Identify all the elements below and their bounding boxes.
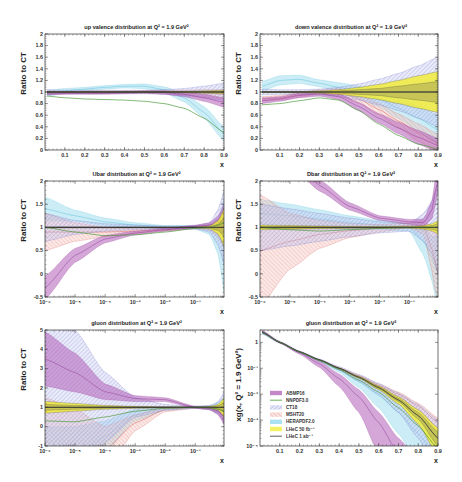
x-axis-label: x xyxy=(434,161,438,168)
legend-swatch xyxy=(270,420,282,424)
chart-title: gluon distribution at Q² = 1.9 GeV² xyxy=(91,320,182,326)
y-axis-label: Ratio to CT xyxy=(19,348,28,391)
y-tick-label: 1.2 xyxy=(36,77,44,83)
y-tick-label: 2 xyxy=(255,31,258,37)
figure: up valence distribution at Q² = 1.9 GeV²… xyxy=(0,0,462,482)
x-tick-label: 10⁻¹ xyxy=(404,299,415,305)
y-tick-label: 1 xyxy=(40,404,43,410)
y-tick-label: 1 xyxy=(40,224,43,230)
y-tick-label: 2 xyxy=(40,31,43,37)
panel-dbar: Dbar distribution at Q² = 1.9 GeV²Ratio … xyxy=(234,171,438,315)
y-tick-label: 1 xyxy=(255,89,258,95)
x-axis-label: x xyxy=(434,457,438,464)
chart-title: down valence distribution at Q² = 1.9 Ge… xyxy=(295,24,407,30)
y-axis-label: Ratio to CT xyxy=(19,52,28,95)
y-tick-label: 1.2 xyxy=(251,77,259,83)
x-tick-label: 0.8 xyxy=(200,152,208,158)
legend-label: CT18 xyxy=(286,405,298,410)
x-tick-label: 0.7 xyxy=(395,448,403,454)
x-axis-label: x xyxy=(434,308,438,315)
x-tick-label: 10⁻² xyxy=(160,299,171,305)
x-tick-label: 0.1 xyxy=(61,152,69,158)
y-axis-label: Ratio to CT xyxy=(19,199,28,242)
y-tick-label: 2 xyxy=(255,178,258,184)
legend-item-msht20: MSHT20 xyxy=(270,412,305,417)
legend-swatch xyxy=(270,405,282,409)
x-tick-label: 0.2 xyxy=(296,448,304,454)
x-axis-label: x xyxy=(220,308,224,315)
x-tick-label: 0.6 xyxy=(375,448,383,454)
x-tick-label: 0.8 xyxy=(414,448,422,454)
panel-dv: down valence distribution at Q² = 1.9 Ge… xyxy=(234,24,442,168)
y-tick-label: 0.5 xyxy=(251,247,259,253)
panel-gluon-ratio: gluon distribution at Q² = 1.9 GeV²Ratio… xyxy=(19,320,224,464)
y-tick-label: 2 xyxy=(40,178,43,184)
y-tick-label: 1.6 xyxy=(251,54,259,60)
chart-title: gluon distribution at Q² = 1.9 GeV² xyxy=(306,320,397,326)
x-tick-label: 0.1 xyxy=(276,152,284,158)
x-tick-label: 10⁻⁵ xyxy=(284,299,296,305)
x-tick-label: 10⁻⁴ xyxy=(314,299,326,305)
y-tick-label: 1 xyxy=(255,339,258,345)
x-tick-label: 0.4 xyxy=(335,448,343,454)
y-tick-label: 0 xyxy=(40,423,43,429)
x-tick-label: 0.6 xyxy=(375,152,383,158)
x-tick-label: 10⁻¹ xyxy=(190,299,201,305)
y-tick-label: 1.4 xyxy=(251,66,259,72)
x-tick-label: 0.3 xyxy=(316,448,324,454)
x-tick-label: 10⁻⁵ xyxy=(69,299,81,305)
x-tick-label: 0.7 xyxy=(395,152,403,158)
chart-title: Dbar distribution at Q² = 1.9 GeV² xyxy=(307,171,395,177)
y-tick-label: 10⁻² xyxy=(247,391,258,397)
legend-label: HERAPDF2.0 xyxy=(286,419,315,424)
x-tick-label: 10⁻² xyxy=(160,448,171,454)
y-tick-label: 0.6 xyxy=(251,112,259,118)
y-tick-label: 0.5 xyxy=(36,247,44,253)
x-tick-label: 0.3 xyxy=(316,152,324,158)
x-tick-label: 0.4 xyxy=(335,152,343,158)
y-tick-label: -0.5 xyxy=(249,294,258,300)
x-tick-label: 10⁻⁴ xyxy=(99,299,111,305)
y-tick-label: 1.5 xyxy=(36,201,44,207)
x-tick-label: 10⁻³ xyxy=(130,299,141,305)
y-tick-label: 10⁻⁴ xyxy=(246,443,258,449)
y-tick-label: 0.6 xyxy=(36,112,44,118)
y-tick-label: 10⁻³ xyxy=(247,417,258,423)
y-tick-label: 0.2 xyxy=(251,135,259,141)
legend-label: ABMP16 xyxy=(286,391,305,396)
y-tick-label: 10⁻¹ xyxy=(247,365,258,371)
y-tick-label: 1.5 xyxy=(251,201,259,207)
y-tick-label: 0.4 xyxy=(251,124,259,130)
y-tick-label: 1.6 xyxy=(36,54,44,60)
panel-uv: up valence distribution at Q² = 1.9 GeV²… xyxy=(19,24,228,168)
x-tick-label: 10⁻⁵ xyxy=(69,448,81,454)
x-tick-label: 0.5 xyxy=(355,448,363,454)
x-tick-label: 10⁻⁴ xyxy=(99,448,111,454)
y-axis-label: Ratio to CT xyxy=(234,199,243,242)
y-tick-label: 1.8 xyxy=(36,42,44,48)
x-tick-label: 0.4 xyxy=(121,152,129,158)
x-tick-label: 0.5 xyxy=(141,152,149,158)
panel-gluon-abs: gluon distribution at Q² = 1.9 GeV²xg(x,… xyxy=(234,320,442,464)
x-tick-label: 10⁻² xyxy=(374,299,385,305)
y-tick-label: 0 xyxy=(255,271,258,277)
x-axis-label: x xyxy=(220,457,224,464)
y-tick-label: 0 xyxy=(40,271,43,277)
y-tick-label: -1 xyxy=(38,443,43,449)
x-tick-label: 10⁻⁶ xyxy=(39,448,51,454)
x-tick-label: 0.5 xyxy=(355,152,363,158)
x-tick-label: 0.9 xyxy=(434,152,442,158)
legend-label: NNPDF3.0 xyxy=(286,398,309,403)
y-tick-label: -0.5 xyxy=(34,294,43,300)
y-tick-label: 1 xyxy=(255,224,258,230)
legend-label: MSHT20 xyxy=(286,412,305,417)
legend-item-lhec-50-fb: LHeC 50 fb⁻¹ xyxy=(270,427,315,432)
y-tick-label: 0.8 xyxy=(36,100,44,106)
y-tick-label: 0 xyxy=(40,147,43,153)
y-tick-label: 0.2 xyxy=(36,135,44,141)
x-axis-label: x xyxy=(220,161,224,168)
chart-title: up valence distribution at Q² = 1.9 GeV² xyxy=(84,24,188,30)
x-tick-label: 0.8 xyxy=(414,152,422,158)
x-tick-label: 0.9 xyxy=(434,448,442,454)
x-tick-label: 10⁻¹ xyxy=(190,448,201,454)
